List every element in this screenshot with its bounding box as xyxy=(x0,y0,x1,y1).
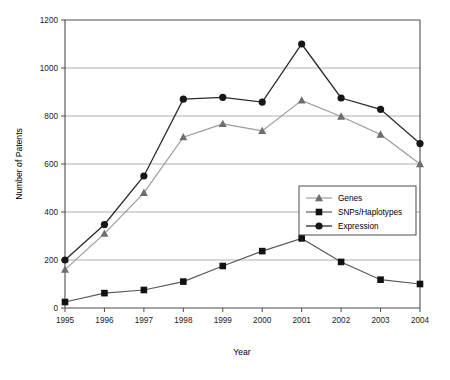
data-point-expression-2000 xyxy=(259,98,266,105)
y-tick-label: 600 xyxy=(44,160,58,169)
data-point-snps-haplotypes-1995 xyxy=(62,299,69,306)
data-point-snps-haplotypes-1999 xyxy=(219,263,226,270)
data-point-snps-haplotypes-1998 xyxy=(180,278,187,285)
legend-label-expression: Expression xyxy=(338,222,379,231)
data-point-expression-1996 xyxy=(101,221,108,228)
legend-label-snps-haplotypes: SNPs/Haplotypes xyxy=(338,208,402,217)
data-point-snps-haplotypes-2004 xyxy=(417,281,424,288)
x-tick-label: 1996 xyxy=(95,316,114,325)
chart-legend: GenesSNPs/HaplotypesExpression xyxy=(299,186,416,235)
x-tick-label: 2003 xyxy=(371,316,390,325)
data-point-expression-2001 xyxy=(298,40,305,47)
data-point-expression-2004 xyxy=(416,140,423,147)
data-point-snps-haplotypes-2003 xyxy=(377,276,384,283)
x-tick-label: 1997 xyxy=(135,316,154,325)
data-point-snps-haplotypes-1996 xyxy=(101,290,108,297)
legend-marker-expression xyxy=(315,222,322,229)
legend-marker-snps-haplotypes xyxy=(316,209,323,216)
data-point-expression-1997 xyxy=(140,172,147,179)
x-tick-label: 1999 xyxy=(214,316,233,325)
x-tick-label: 1998 xyxy=(174,316,193,325)
y-tick-label: 1200 xyxy=(40,16,59,25)
data-point-snps-haplotypes-2002 xyxy=(338,259,345,266)
data-point-snps-haplotypes-1997 xyxy=(141,287,148,294)
data-point-expression-2002 xyxy=(338,94,345,101)
data-point-expression-1995 xyxy=(61,256,68,263)
y-tick-label: 1000 xyxy=(40,64,59,73)
data-point-expression-2003 xyxy=(377,106,384,113)
chart-svg: 020040060080010001200 199519961997199819… xyxy=(0,0,450,380)
y-tick-label: 200 xyxy=(44,256,58,265)
x-axis-title: Year xyxy=(233,347,251,357)
data-point-snps-haplotypes-2001 xyxy=(298,235,305,242)
data-point-snps-haplotypes-2000 xyxy=(259,248,266,255)
x-tick-label: 2002 xyxy=(332,316,351,325)
legend-label-genes: Genes xyxy=(338,194,362,203)
x-tick-label: 2004 xyxy=(411,316,430,325)
y-tick-label: 0 xyxy=(53,304,58,313)
y-tick-label: 400 xyxy=(44,208,58,217)
data-point-expression-1998 xyxy=(180,96,187,103)
x-tick-label: 2001 xyxy=(293,316,312,325)
data-point-expression-1999 xyxy=(219,94,226,101)
patents-line-chart: 020040060080010001200 199519961997199819… xyxy=(0,0,450,380)
x-tick-label: 2000 xyxy=(253,316,272,325)
y-axis-title: Number of Patents xyxy=(14,128,24,200)
x-tick-label: 1995 xyxy=(56,316,75,325)
y-tick-label: 800 xyxy=(44,112,58,121)
